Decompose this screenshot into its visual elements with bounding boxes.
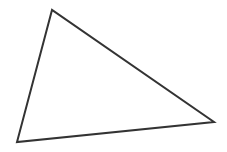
triangle-shape bbox=[17, 10, 214, 142]
triangle-figure bbox=[0, 0, 227, 152]
diagram-canvas bbox=[0, 0, 227, 152]
